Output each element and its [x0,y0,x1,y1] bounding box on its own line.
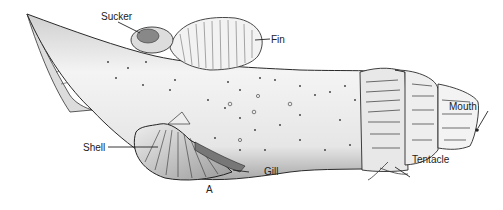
label-shell: Shell [83,143,105,153]
label-gill: Gill [264,167,278,177]
sucker [131,27,173,53]
label-sucker: Sucker [101,12,132,22]
specimen-drawing [0,0,503,210]
label-mouth: Mouth [449,102,477,112]
label-fin: Fin [271,35,285,45]
fin [170,17,262,70]
label-tentacle: Tentacle [412,155,449,165]
mouth-opening [475,128,479,132]
mollusc-illustration: Sucker Fin Mouth Shell Gill Tentacle A [0,0,503,210]
panel-letter: A [206,185,213,195]
